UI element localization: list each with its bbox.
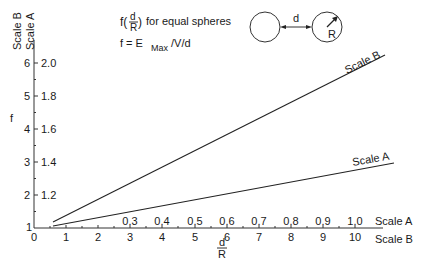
svg-text:2: 2 (24, 189, 30, 201)
svg-text:0.3: 0.3 (122, 215, 137, 227)
svg-text:R: R (130, 22, 137, 33)
svg-text:6: 6 (24, 57, 30, 69)
svg-text:): ) (138, 15, 142, 29)
svg-text:0.4: 0.4 (154, 215, 169, 227)
svg-text:/V/d: /V/d (171, 37, 191, 49)
x-axis-scale-b-title: Scale B (375, 233, 413, 245)
svg-text:1.8: 1.8 (41, 90, 56, 102)
svg-text:0.6: 0.6 (219, 215, 234, 227)
svg-text:1: 1 (63, 231, 69, 243)
chart-title: f( d R ) for equal spheres (120, 11, 231, 33)
svg-text:8: 8 (288, 231, 294, 243)
svg-text:d: d (130, 11, 136, 22)
svg-text:2: 2 (95, 231, 101, 243)
svg-text:9: 9 (320, 231, 326, 243)
svg-text:3: 3 (24, 156, 30, 168)
y-tick-labels-b: 2 3 4 5 6 (24, 57, 30, 201)
svg-text:0.9: 0.9 (315, 215, 330, 227)
svg-text:3: 3 (127, 231, 133, 243)
svg-text:0.8: 0.8 (283, 215, 298, 227)
svg-text:d: d (219, 236, 225, 248)
svg-text:R: R (328, 28, 336, 40)
x-tick-labels-b: 0 1 2 3 4 5 6 7 8 9 10 (31, 231, 361, 243)
svg-text:10: 10 (349, 231, 361, 243)
svg-text:Max: Max (151, 43, 169, 53)
x-axis-scale-a-title: Scale A (375, 215, 413, 227)
spheres-diagram: d R (250, 12, 342, 42)
svg-text:7: 7 (256, 231, 262, 243)
y-axis-label: f (10, 112, 14, 124)
svg-text:0.7: 0.7 (251, 215, 266, 227)
line-label-scale-b: Scale B (343, 48, 382, 75)
svg-text:5: 5 (24, 90, 30, 102)
y-axis-scale-a-title: Scale A (24, 12, 36, 50)
svg-text:0: 0 (31, 231, 37, 243)
y-axis-scale-b-title: Scale B (11, 12, 23, 50)
y-ticks (34, 63, 38, 212)
svg-text:0.5: 0.5 (187, 215, 202, 227)
sphere-left-icon (250, 12, 280, 42)
svg-text:1.6: 1.6 (41, 123, 56, 135)
svg-text:d: d (293, 12, 299, 24)
svg-text:f(: f( (120, 15, 127, 29)
chart-formula: f = E Max /V/d (120, 37, 191, 53)
svg-text:4: 4 (24, 123, 30, 135)
svg-text:2.0: 2.0 (41, 57, 56, 69)
svg-text:4: 4 (159, 231, 165, 243)
svg-text:1.0: 1.0 (347, 215, 362, 227)
svg-text:5: 5 (192, 231, 198, 243)
series-line-scale-b (53, 55, 385, 222)
svg-text:for equal spheres: for equal spheres (146, 15, 231, 27)
svg-text:R: R (218, 248, 226, 260)
chart-canvas: Scale B Scale A f 2 3 4 5 6 1.2 1.4 1.6 … (0, 0, 424, 269)
svg-text:f = E: f = E (120, 37, 143, 49)
y-tick-labels-a: 1.2 1.4 1.6 1.8 2.0 (41, 57, 56, 201)
x-tick-labels-a: 0.3 0.4 0.5 0.6 0.7 0.8 0.9 1.0 (122, 215, 362, 227)
svg-text:1.4: 1.4 (41, 156, 56, 168)
svg-text:1.2: 1.2 (41, 189, 56, 201)
